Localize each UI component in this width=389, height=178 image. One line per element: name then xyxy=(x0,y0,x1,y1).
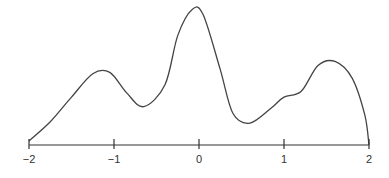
x-tick-label: −1 xyxy=(108,153,121,165)
x-tick-label: 1 xyxy=(281,153,287,165)
x-axis-ticks xyxy=(29,139,369,149)
x-tick-label: −2 xyxy=(23,153,36,165)
chart: −2 −1 0 1 2 xyxy=(0,0,389,178)
density-curve xyxy=(29,7,369,145)
x-tick-label: 2 xyxy=(366,153,372,165)
x-tick-label: 0 xyxy=(196,153,202,165)
x-axis-tick-labels: −2 −1 0 1 2 xyxy=(23,153,372,165)
